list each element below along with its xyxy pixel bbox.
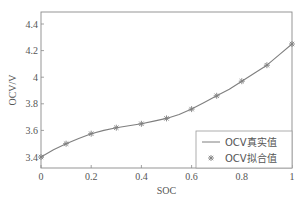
x-tick-label: 0 <box>39 171 44 182</box>
x-axis-label: SOC <box>157 185 177 196</box>
y-axis-label: OCV/V <box>7 74 18 106</box>
y-tick-label: 4 <box>33 72 38 83</box>
y-tick-label: 3.4 <box>26 152 39 163</box>
legend-label-fit: OCV拟合值 <box>225 152 277 164</box>
asterisk-marker-icon <box>164 115 170 121</box>
y-tick-label: 4.4 <box>26 19 39 30</box>
y-tick-label: 4.2 <box>26 45 39 56</box>
asterisk-marker-icon <box>38 154 44 160</box>
legend-asterisk-icon <box>208 155 214 161</box>
x-tick-label: 0.8 <box>236 171 249 182</box>
x-tick-label: 0.4 <box>135 171 148 182</box>
asterisk-marker-icon <box>138 121 144 127</box>
asterisk-marker-icon <box>264 62 270 68</box>
asterisk-marker-icon <box>214 93 220 99</box>
asterisk-marker-icon <box>113 125 119 131</box>
asterisk-marker-icon <box>239 78 245 84</box>
asterisk-marker-icon <box>63 141 69 147</box>
y-tick-label: 3.8 <box>26 98 39 109</box>
legend: OCV真实值 OCV拟合值 <box>196 131 292 168</box>
ocv-soc-chart: 00.20.40.60.813.43.63.844.24.4SOCOCV/V O… <box>0 0 304 202</box>
asterisk-marker-icon <box>88 131 94 137</box>
x-tick-label: 0.2 <box>85 171 98 182</box>
x-tick-label: 1 <box>290 171 295 182</box>
y-tick-label: 3.6 <box>26 125 39 136</box>
legend-label-true: OCV真实值 <box>225 136 277 148</box>
asterisk-marker-icon <box>289 41 295 47</box>
asterisk-marker-icon <box>189 106 195 112</box>
x-tick-label: 0.6 <box>185 171 198 182</box>
